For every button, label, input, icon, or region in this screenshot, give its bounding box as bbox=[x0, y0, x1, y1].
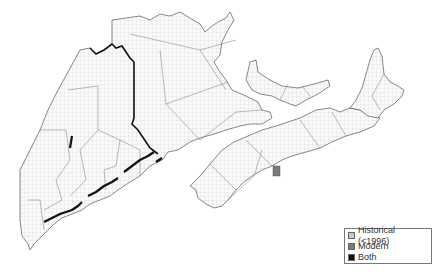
modern-occurrence-cell bbox=[273, 166, 280, 176]
both-swatch-icon bbox=[348, 254, 355, 261]
modern-swatch-icon bbox=[348, 243, 355, 250]
legend-item-historical: Historical (<1996) bbox=[348, 230, 428, 241]
legend-item-both: Both bbox=[348, 252, 428, 263]
pei-landmass bbox=[246, 60, 330, 106]
cape-breton-landmass bbox=[350, 48, 404, 118]
legend-label: Modern bbox=[358, 241, 389, 252]
map-legend: Historical (<1996) Modern Both bbox=[344, 228, 432, 264]
legend-label: Both bbox=[358, 252, 377, 263]
historical-swatch-icon bbox=[348, 232, 355, 239]
